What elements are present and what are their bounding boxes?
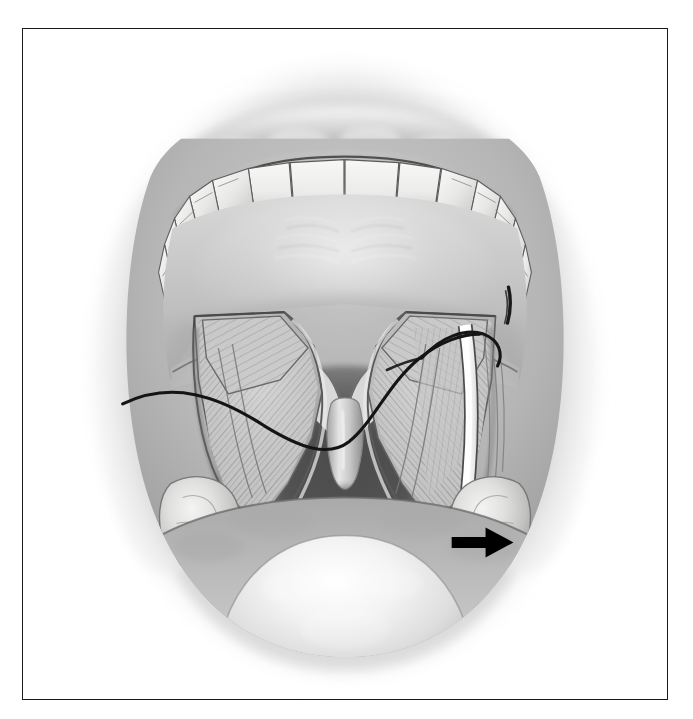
figure-subtitle: Bilateral palatal flaps elevated with su… [0, 0, 1, 1]
figure-title: Intraoral view of palatoplasty [0, 0, 1, 1]
figure-page: Intraoral view of palatoplasty Bilateral… [0, 0, 693, 719]
anatomical-illustration [23, 29, 667, 699]
plate-frame [22, 28, 668, 700]
uvula-highlight [342, 410, 344, 470]
